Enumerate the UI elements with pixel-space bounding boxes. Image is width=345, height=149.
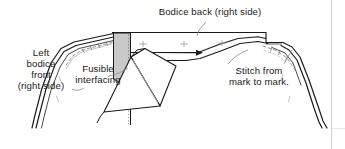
label-left-bodice-front: Left bodice front (right side) <box>6 47 76 91</box>
label-fusible-interfacing: Fusible interfacing <box>68 63 128 85</box>
leader-line-stitch <box>228 50 248 64</box>
leader-line-bodice-back <box>197 22 206 36</box>
folded-flap <box>97 49 176 124</box>
figure-border <box>332 0 345 149</box>
label-bodice-back: Bodice back (right side) <box>149 6 271 17</box>
back-panel-mark-crosses <box>139 40 226 47</box>
sewing-diagram-figure: Bodice back (right side) Left bodice fro… <box>0 0 345 149</box>
label-stitch-from-mark: Stitch from mark to mark. <box>222 65 296 87</box>
arrow-icon <box>152 50 203 56</box>
